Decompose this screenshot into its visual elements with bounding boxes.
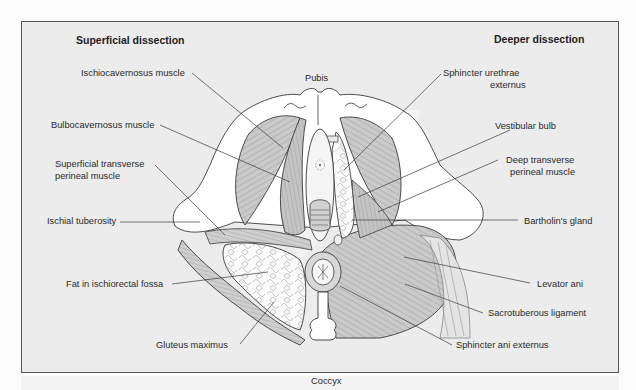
label-superficial-transverse-line1: Superficial transverse <box>55 159 144 170</box>
bartholins-gland <box>334 235 342 245</box>
label-gluteus-maximus: Gluteus maximus <box>156 340 228 351</box>
label-sphincter-urethrae-line2: externus <box>490 80 526 91</box>
perineum-illustration <box>0 0 636 390</box>
label-sphincter-urethrae-line1: Sphincter urethrae <box>443 68 520 79</box>
label-deep-transverse-line1: Deep transverse <box>506 155 574 166</box>
label-ischiocavernosus: Ischiocavernosus muscle <box>81 68 185 79</box>
label-bulbocavernosus: Bulbocavernosus muscle <box>51 120 154 131</box>
label-superficial-transverse-line2: perineal muscle <box>55 171 120 182</box>
vaginal-orifice <box>310 200 330 231</box>
label-bartholins-gland: Bartholin's gland <box>524 216 592 227</box>
label-ischial-tuberosity: Ischial tuberosity <box>47 216 116 227</box>
heading-superficial-dissection: Superficial dissection <box>76 34 185 46</box>
label-coccyx: Coccyx <box>311 376 341 387</box>
label-deep-transverse-line2: perineal muscle <box>510 167 575 178</box>
label-sacrotuberous-ligament: Sacrotuberous ligament <box>488 308 586 319</box>
heading-deeper-dissection: Deeper dissection <box>494 33 584 45</box>
label-vestibular-bulb: Vestibular bulb <box>495 121 556 132</box>
label-fat-ischiorectal-fossa: Fat in ischiorectal fossa <box>66 279 163 290</box>
label-pubis: Pubis <box>305 73 328 84</box>
label-levator-ani: Levator ani <box>537 279 583 290</box>
anal-sphincter <box>305 252 341 292</box>
label-sphincter-ani-externus: Sphincter ani externus <box>456 340 549 351</box>
